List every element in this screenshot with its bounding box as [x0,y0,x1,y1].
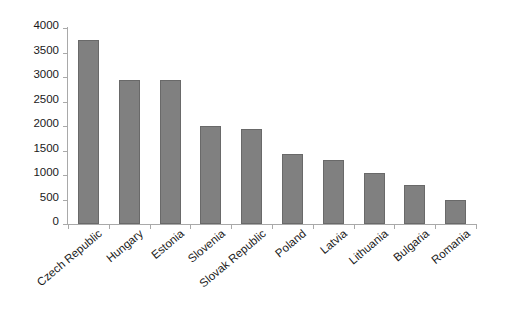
y-axis-tick-label: 1500 [33,143,59,155]
y-axis-tick-label: 1000 [33,167,59,179]
x-axis-category-label-text: Lithuania [347,228,390,267]
y-axis-tick-label: 2500 [33,94,59,106]
bar-series [68,28,476,224]
x-axis-category-label-text: Estonia [150,228,187,261]
x-axis-category-label-text: Latvia [319,228,350,257]
y-axis-tick-label: 2000 [33,118,59,130]
bar-chart: 05001000150020002500300035004000 Czech R… [0,0,523,322]
y-axis-tick-label: 0 [53,216,59,228]
x-axis-category-label-text: Poland [274,228,309,260]
x-axis-category-label-text: Romania [429,228,472,266]
x-axis-category-label-text: Hungary [105,228,146,265]
y-axis-tick-label: 500 [40,192,59,204]
x-axis-category-label-text: Bulgaria [391,228,431,264]
y-axis-tick-label: 4000 [33,20,59,32]
y-axis-tick-label: 3500 [33,45,59,57]
y-axis-tick-label: 3000 [33,69,59,81]
plot-area: 05001000150020002500300035004000 [68,28,476,224]
x-axis-category-labels: Czech RepublicHungaryEstoniaSloveniaSlov… [68,228,476,322]
x-axis-category-label-text: Czech Republic [36,228,105,289]
bar [78,40,99,224]
